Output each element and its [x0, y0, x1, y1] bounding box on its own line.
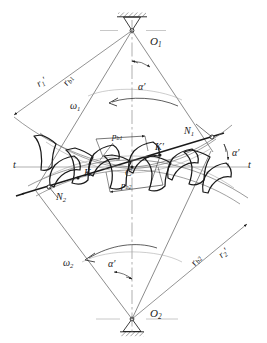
label-point-n2: N2: [56, 192, 66, 203]
label-center-o2: O2: [150, 308, 162, 321]
label-alpha-bottom: α′: [108, 259, 115, 269]
label-base-pitch-1: pb1: [112, 132, 122, 142]
radius-base-line-o2-to-right: [132, 151, 211, 319]
label-omega-1: ω1: [70, 101, 80, 112]
base-circle-arc-gear2: [36, 170, 240, 204]
label-center-o1: O1: [150, 36, 162, 49]
radius-line-o2-to-n2: [36, 191, 132, 319]
label-tangent-left: t: [13, 160, 16, 170]
label-point-k: K: [84, 168, 91, 178]
label-point-c: C: [125, 168, 132, 178]
label-alpha-right: α′: [232, 148, 239, 158]
rotation-arrow-omega2: [85, 245, 157, 262]
diagram-canvas: [0, 0, 267, 343]
label-point-n1: N1: [184, 126, 194, 137]
label-omega-2: ω2: [63, 258, 73, 269]
label-tangent-right: t: [248, 160, 251, 170]
label-base-pitch-2: pb2: [121, 181, 131, 191]
pitch-circle-arc-gear1: [14, 117, 232, 167]
angle-arc-alpha-bottom: [114, 272, 132, 279]
radius-line-o2-to-far-right: [132, 224, 247, 319]
mesh-point-k: [77, 177, 80, 180]
label-point-k-prime: K′: [155, 142, 164, 152]
angle-arc-alpha-top: [132, 61, 150, 67]
gear-meshing-figure: O1 O2 r1′ rb1 rb2 r2′ ω1 ω2 α′ α′ α′ pb1…: [0, 0, 267, 343]
label-alpha-top: α′: [138, 82, 145, 92]
rotation-arrow-omega1: [109, 98, 178, 106]
